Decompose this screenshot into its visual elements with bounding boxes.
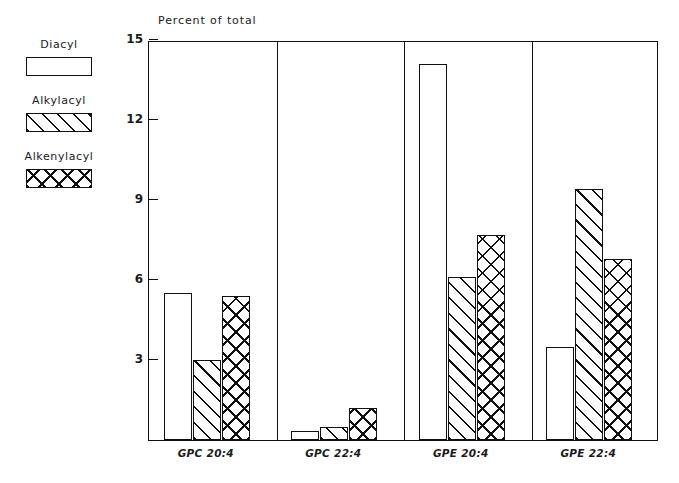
- y-tick-label-6: 6: [135, 272, 143, 286]
- legend-label-diacyl: Diacyl: [0, 38, 118, 51]
- group-separator-1: [277, 42, 278, 440]
- group-separator-2: [404, 42, 405, 440]
- x-axis-label-GPC-22-4: GPC 22:4: [305, 447, 361, 459]
- legend-item-alkenylacyl: Alkenylacyl: [0, 150, 118, 188]
- bar-alkenylacyl-GPE-20-4: [477, 235, 505, 440]
- legend-swatch-diacyl: [26, 57, 92, 76]
- bar-diacyl-GPE-20-4: [419, 64, 447, 440]
- y-tick-6: 6: [149, 279, 158, 280]
- x-axis-label-GPC-20-4: GPC 20:4: [178, 447, 234, 459]
- legend-item-diacyl: Diacyl: [0, 38, 118, 76]
- bar-alkenylacyl-GPC-20-4: [222, 296, 250, 440]
- legend-label-alkylacyl: Alkylacyl: [0, 94, 118, 107]
- bar-alkylacyl-GPC-20-4: [193, 360, 221, 440]
- y-tick-15: 15: [149, 39, 158, 40]
- legend-item-alkylacyl: Alkylacyl: [0, 94, 118, 132]
- bar-alkenylacyl-GPC-22-4: [349, 408, 377, 440]
- y-tick-12: 12: [149, 119, 158, 120]
- y-tick-9: 9: [149, 199, 158, 200]
- y-tick-label-3: 3: [135, 352, 143, 366]
- x-axis-label-GPE-20-4: GPE 20:4: [433, 447, 489, 459]
- bar-alkenylacyl-GPE-22-4: [604, 259, 632, 440]
- y-tick-label-12: 12: [126, 112, 143, 126]
- legend-label-alkenylacyl: Alkenylacyl: [0, 150, 118, 163]
- bar-alkylacyl-GPC-22-4: [320, 427, 348, 440]
- bar-alkylacyl-GPE-22-4: [575, 189, 603, 440]
- bar-alkylacyl-GPE-20-4: [448, 277, 476, 440]
- y-tick-3: 3: [149, 359, 158, 360]
- legend-swatch-alkenylacyl: [26, 169, 92, 188]
- bar-diacyl-GPE-22-4: [546, 347, 574, 440]
- plot-area: 3691215: [148, 41, 658, 441]
- chart-title: Percent of total: [158, 14, 257, 27]
- legend-swatch-alkylacyl: [26, 113, 92, 132]
- bar-diacyl-GPC-20-4: [164, 293, 192, 440]
- group-separator-3: [532, 42, 533, 440]
- chart-legend: Diacyl Alkylacyl Alkenylacyl: [0, 38, 118, 206]
- y-tick-label-15: 15: [126, 32, 143, 46]
- y-tick-label-9: 9: [135, 192, 143, 206]
- x-axis-label-GPE-22-4: GPE 22:4: [560, 447, 616, 459]
- bar-diacyl-GPC-22-4: [291, 431, 319, 440]
